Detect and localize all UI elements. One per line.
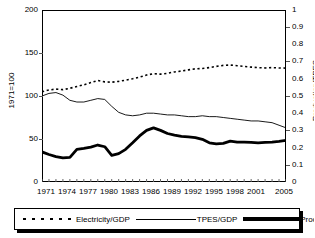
series-production-tpes <box>42 128 286 158</box>
y-axis-right-title: Production/TPES <box>311 51 315 131</box>
y-axis-left-tickmark <box>39 53 43 54</box>
chart-legend: Electricity/GDP TPES/GDP Production/TPES <box>14 208 300 230</box>
y-axis-right-tickmark <box>286 27 290 28</box>
y-axis-left-tick-100: 100 <box>12 92 38 100</box>
legend-label-production-tpes: Production/TPES <box>300 215 314 224</box>
thick-line-swatch-icon <box>243 217 299 221</box>
y-axis-right-tickmark <box>286 61 290 62</box>
y-axis-left-tick-200: 200 <box>12 6 38 14</box>
chart-page: 200 150 100 50 0 1 0.9 0.8 0.7 0.6 0.5 0… <box>0 0 314 238</box>
series-electricity-gdp <box>42 65 286 92</box>
legend-item-electricity-gdp: Electricity/GDP <box>23 215 130 224</box>
chart-area: 200 150 100 50 0 1 0.9 0.8 0.7 0.6 0.5 0… <box>0 0 314 200</box>
y-axis-right-tickmark <box>286 96 290 97</box>
thin-line-swatch-icon <box>136 219 196 220</box>
legend-label-electricity-gdp: Electricity/GDP <box>76 215 130 224</box>
y-axis-right-tick-0-1: 0.1 <box>292 161 314 169</box>
y-axis-right-tick-1: 1 <box>292 6 314 14</box>
y-axis-left-title: 1971=100 <box>7 56 16 126</box>
x-axis-tick-2005: 2005 <box>269 188 299 196</box>
y-axis-right-tickmark <box>286 165 290 166</box>
y-axis-left-tickmark <box>39 96 43 97</box>
plot-canvas <box>42 10 286 182</box>
legend-item-tpes-gdp: TPES/GDP <box>136 215 237 224</box>
y-axis-left-tickmark <box>39 139 43 140</box>
y-axis-right-tickmark <box>286 130 290 131</box>
legend-item-production-tpes: Production/TPES <box>243 215 314 224</box>
y-axis-left-tick-0: 0 <box>12 178 38 186</box>
series-tpes-gdp <box>42 93 286 128</box>
y-axis-right-tick-0-8: 0.8 <box>292 40 314 48</box>
y-axis-right-tick-0-9: 0.9 <box>292 23 314 31</box>
y-axis-right-tick-0-2: 0.2 <box>292 144 314 152</box>
dotted-line-swatch-icon <box>23 218 75 220</box>
legend-label-tpes-gdp: TPES/GDP <box>197 215 237 224</box>
y-axis-left-tick-50: 50 <box>12 135 38 143</box>
y-axis-left-tick-150: 150 <box>12 49 38 57</box>
y-axis-right-tick-0: 0 <box>292 178 314 186</box>
x-axis-tick-2001: 2001 <box>241 188 271 196</box>
